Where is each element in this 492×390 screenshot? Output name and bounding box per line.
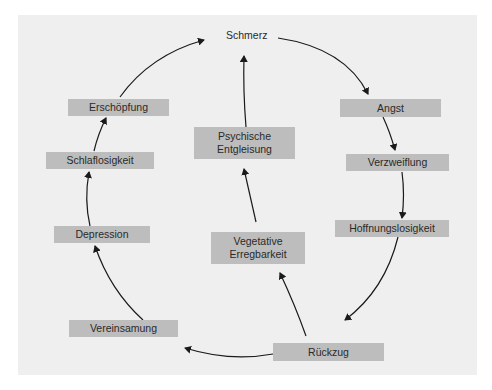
node-psychische-line2: Entgleisung bbox=[217, 143, 272, 156]
arrow-psychische-schmerz bbox=[244, 56, 246, 127]
arrow-rueckzug-vereinsamung bbox=[185, 348, 273, 357]
node-erschoepfung: Erschöpfung bbox=[68, 99, 169, 116]
node-vegetative-line1: Vegetative bbox=[233, 235, 282, 248]
arrow-schmerz-angst bbox=[278, 38, 368, 94]
node-schmerz: Schmerz bbox=[226, 29, 267, 41]
node-rueckzug: Rückzug bbox=[273, 343, 384, 361]
node-depression: Depression bbox=[54, 226, 150, 243]
node-vereinsamung: Vereinsamung bbox=[69, 320, 178, 337]
arrow-vegetative-psychische bbox=[244, 169, 256, 222]
node-vegetative-erregbarkeit: Vegetative Erregbarkeit bbox=[211, 232, 305, 264]
node-psychische-entgleisung: Psychische Entgleisung bbox=[194, 127, 295, 159]
arrow-hoffnungslosigkeit-rueckzug bbox=[345, 237, 398, 320]
arrow-verzweiflung-hoffnungslosigkeit bbox=[402, 172, 404, 218]
node-hoffnungslosigkeit: Hoffnungslosigkeit bbox=[335, 220, 449, 237]
arrow-angst-verzweiflung bbox=[383, 117, 395, 150]
node-vegetative-line2: Erregbarkeit bbox=[229, 248, 286, 261]
arrow-erschoepfung-schmerz bbox=[120, 40, 204, 97]
arrow-vereinsamung-depression bbox=[95, 246, 143, 320]
arrow-schlaflosigkeit-erschoepfung bbox=[94, 118, 106, 151]
arrow-rueckzug-vegetative bbox=[280, 273, 306, 336]
node-angst: Angst bbox=[340, 99, 441, 117]
arrow-depression-schlaflosigkeit bbox=[87, 172, 90, 226]
node-verzweiflung: Verzweiflung bbox=[346, 154, 449, 171]
node-schlaflosigkeit: Schlaflosigkeit bbox=[46, 152, 154, 169]
node-psychische-line1: Psychische bbox=[218, 130, 271, 143]
